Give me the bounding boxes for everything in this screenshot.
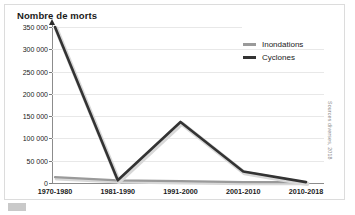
corner-tab: [8, 203, 26, 211]
y-axis-tick-label: 100 000: [23, 135, 48, 142]
legend-item[interactable]: Inondations: [243, 38, 339, 51]
legend-item[interactable]: Cyclones: [243, 51, 339, 64]
x-axis-tick-label: 1981-1990: [101, 187, 135, 196]
y-axis-tick-label: 200 000: [23, 90, 48, 97]
y-axis-tick-label: 300 000: [23, 46, 48, 53]
chart-figure: Nombre de morts 050 000100 000150 000200…: [4, 4, 345, 200]
y-axis-tick-label: 350 000: [23, 24, 48, 31]
y-axis-labels: 050 000100 000150 000200 000250 000300 0…: [5, 27, 48, 183]
legend-swatch-icon: [243, 43, 256, 46]
x-axis-tick-label: 2010-2018: [289, 187, 323, 196]
y-axis-tick-label: 0: [44, 180, 48, 187]
y-axis-arrow-icon: [49, 19, 55, 25]
source-note: Sources diverses, 2018: [327, 101, 333, 160]
x-axis-tick-label: 2001-2010: [226, 187, 260, 196]
y-axis-tick-label: 150 000: [23, 113, 48, 120]
y-axis-tick-label: 50 000: [27, 157, 48, 164]
legend-label: Inondations: [262, 40, 303, 49]
x-axis-tick-label: 1970-1980: [38, 187, 72, 196]
chart-legend: InondationsCyclones: [243, 38, 339, 64]
x-axis-tick-label: 1991-2000: [163, 187, 197, 196]
legend-swatch-icon: [243, 56, 256, 60]
chart-title: Nombre de morts: [17, 10, 97, 21]
legend-label: Cyclones: [262, 53, 295, 62]
y-axis-tick-label: 250 000: [23, 68, 48, 75]
